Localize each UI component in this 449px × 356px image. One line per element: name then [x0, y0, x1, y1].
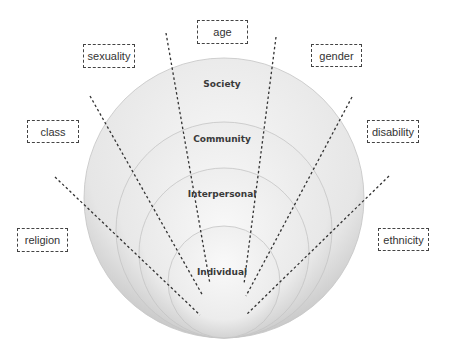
- category-box-sexuality: sexuality: [83, 44, 135, 68]
- level-label-community: Community: [193, 134, 251, 144]
- category-box-class: class: [27, 120, 79, 143]
- level-label-individual: Individual: [197, 267, 247, 277]
- category-box-ethnicity: ethnicity: [378, 228, 429, 251]
- intersectionality-diagram: [0, 0, 449, 356]
- category-box-disability: disability: [367, 120, 419, 143]
- level-label-society: Society: [203, 79, 240, 89]
- circle-individual: [168, 226, 280, 338]
- category-box-gender: gender: [311, 44, 362, 67]
- category-box-age: age: [197, 20, 248, 44]
- category-box-religion: religion: [17, 228, 68, 252]
- level-label-interpersonal: Interpersonal: [188, 189, 257, 199]
